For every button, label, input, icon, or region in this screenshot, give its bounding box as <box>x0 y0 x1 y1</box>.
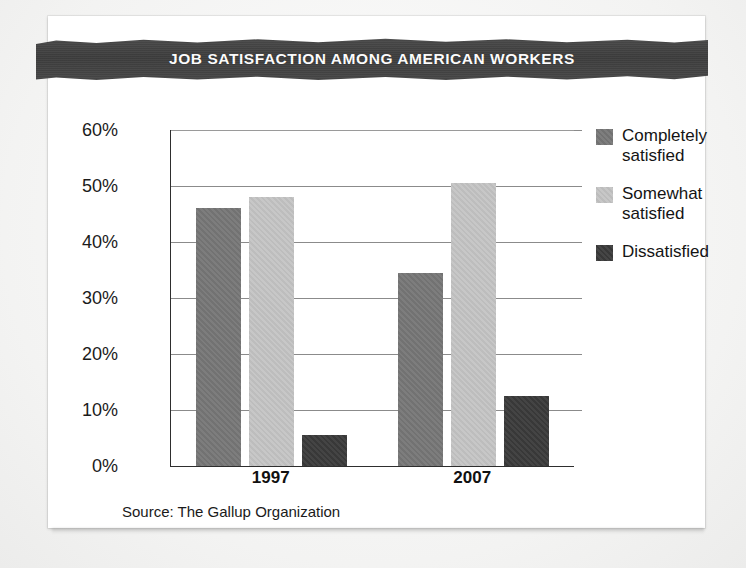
bar-1997-somewhat-satisfied <box>249 197 294 466</box>
bar-2007-completely-satisfied <box>398 273 443 466</box>
y-axis-tick-label: 0% <box>48 456 118 477</box>
y-axis-tick-label: 30% <box>48 288 118 309</box>
axis-tick-stub <box>574 130 582 131</box>
bar-1997-dissatisfied <box>302 435 347 466</box>
x-axis-tick-label: 1997 <box>252 468 290 488</box>
x-axis-tick-label: 2007 <box>453 468 491 488</box>
y-axis-tick-label: 60% <box>48 120 118 141</box>
y-axis-tick-label: 20% <box>48 344 118 365</box>
axis-tick-stub <box>574 186 582 187</box>
axis-tick-stub <box>574 298 582 299</box>
gridline <box>171 186 574 187</box>
axis-tick-stub <box>574 354 582 355</box>
source-note: Source: The Gallup Organization <box>122 503 340 520</box>
legend-item: Somewhat satisfied <box>596 184 746 224</box>
bar-2007-dissatisfied <box>504 396 549 466</box>
y-axis-tick-label: 10% <box>48 400 118 421</box>
page-title: JOB SATISFACTION AMONG AMERICAN WORKERS <box>169 50 575 68</box>
bar-2007-somewhat-satisfied <box>451 183 496 466</box>
legend-swatch-icon <box>596 187 613 203</box>
plot-region: 0%10%20%30%40%50%60% 19972007 <box>122 114 577 479</box>
legend-label: Dissatisfied <box>622 242 709 262</box>
plot-area <box>170 130 574 467</box>
title-banner: JOB SATISFACTION AMONG AMERICAN WORKERS <box>36 38 708 80</box>
legend-label: Somewhat satisfied <box>622 184 702 224</box>
legend-item: Dissatisfied <box>596 242 746 262</box>
bar-1997-completely-satisfied <box>196 208 241 466</box>
chart-card: JOB SATISFACTION AMONG AMERICAN WORKERS … <box>48 16 705 528</box>
legend-item: Completely satisfied <box>596 126 746 166</box>
axis-tick-stub <box>574 242 582 243</box>
legend-swatch-icon <box>596 129 613 145</box>
axis-tick-stub <box>574 410 582 411</box>
gridline <box>171 130 574 131</box>
chart-legend: Completely satisfiedSomewhat satisfiedDi… <box>596 126 746 280</box>
legend-label: Completely satisfied <box>622 126 707 166</box>
y-axis-tick-label: 50% <box>48 176 118 197</box>
legend-swatch-icon <box>596 245 613 261</box>
y-axis-tick-label: 40% <box>48 232 118 253</box>
card-drop-shadow <box>52 528 704 534</box>
